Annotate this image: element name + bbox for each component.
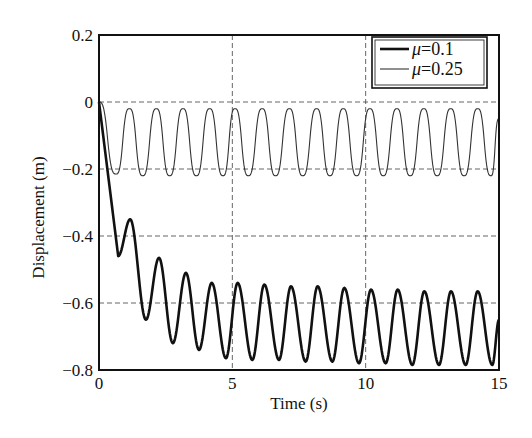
legend-mu-value: =0.25 (421, 59, 463, 79)
x-tick-label: 10 (357, 374, 374, 393)
legend-mu-symbol: μ (411, 39, 421, 59)
series-curve-0 (99, 102, 499, 365)
y-tick-label: −0.2 (62, 160, 93, 179)
y-axis-label: Displacement (m) (29, 156, 48, 278)
legend: μ=0.1 μ=0.25 (372, 37, 487, 88)
legend-label-mu-0.25: μ=0.25 (411, 59, 463, 79)
y-tick-label: −0.4 (62, 227, 93, 246)
x-tick-label: 5 (228, 374, 237, 393)
displacement-chart: 0.20−0.2−0.4−0.6−0.8 051015 Time (s) Dis… (0, 0, 532, 438)
x-axis-ticks: 051015 (95, 374, 508, 393)
x-tick-label: 15 (491, 374, 508, 393)
x-axis-label: Time (s) (270, 394, 327, 413)
legend-label-mu-0.1: μ=0.1 (411, 39, 454, 59)
series-curve-1 (99, 102, 499, 176)
y-axis-ticks: 0.20−0.2−0.4−0.6−0.8 (62, 26, 93, 380)
y-tick-label: 0.2 (72, 26, 93, 45)
legend-mu-symbol: μ (411, 59, 421, 79)
y-tick-label: 0 (85, 93, 94, 112)
legend-mu-value: =0.1 (421, 39, 454, 59)
plot-curves (99, 102, 499, 365)
y-tick-label: −0.8 (62, 361, 93, 380)
x-tick-label: 0 (95, 374, 104, 393)
y-tick-label: −0.6 (62, 294, 93, 313)
